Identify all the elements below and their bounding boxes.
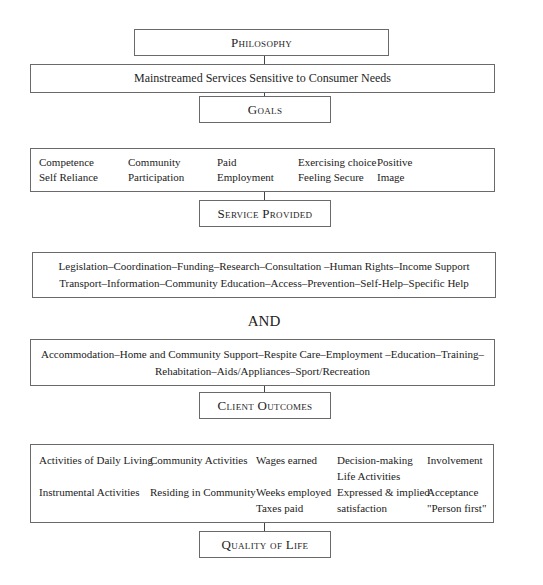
goal-item: Community xyxy=(128,155,184,170)
outcome-item: Instrumental Activities xyxy=(39,484,140,500)
client-outcomes-box: Client Outcomes xyxy=(199,392,331,419)
connector-line xyxy=(264,523,265,531)
connector-line xyxy=(264,192,265,200)
outcome-item: Wages earned xyxy=(256,452,317,468)
quality-of-life-box: Quality of Life xyxy=(199,531,331,558)
specific-services-box: Accommodation–Home and Community Support… xyxy=(30,339,495,386)
outcome-column: Acceptance "Person first" xyxy=(427,484,486,516)
outcome-item: "Person first" xyxy=(427,500,486,516)
and-connector-label: AND xyxy=(0,313,528,330)
outcome-item: Life Activities xyxy=(337,468,413,484)
service-provided-box: Service Provided xyxy=(199,200,331,227)
goals-box: Goals xyxy=(199,96,331,123)
outcome-item: Community Activities xyxy=(150,452,247,468)
goals-title: Goals xyxy=(248,102,282,118)
outcome-column: Wages earned xyxy=(256,452,317,468)
client-outcomes-title: Client Outcomes xyxy=(218,398,313,414)
outcome-item: Decision-making xyxy=(337,452,413,468)
specific-services-line: Accommodation–Home and Community Support… xyxy=(41,346,484,363)
goals-list-box: Competence Self Reliance Community Parti… xyxy=(30,148,495,192)
philosophy-box: Philosophy xyxy=(134,29,389,56)
outcome-column: Community Activities xyxy=(150,452,247,468)
outcome-item: Involvement xyxy=(427,452,483,468)
outcome-column: Residing in Community xyxy=(150,484,256,500)
philosophy-title: Philosophy xyxy=(231,35,292,51)
generic-services-line: Legislation–Coordination–Funding–Researc… xyxy=(59,258,470,275)
outcome-column: Instrumental Activities xyxy=(39,484,140,500)
outcome-item: Weeks employed xyxy=(256,484,331,500)
outcome-item: Expressed & implied xyxy=(337,484,430,500)
outcome-column: Expressed & implied satisfaction xyxy=(337,484,430,516)
philosophy-statement: Mainstreamed Services Sensitive to Consu… xyxy=(134,71,391,86)
outcome-item: Acceptance xyxy=(427,484,486,500)
outcome-item: satisfaction xyxy=(337,500,430,516)
goal-column: Paid Employment xyxy=(217,155,274,185)
goal-column: Community Participation xyxy=(128,155,184,185)
generic-services-line: Transport–Information–Community Educatio… xyxy=(59,275,469,292)
goal-item: Exercising choice xyxy=(298,155,377,170)
outcome-column: Weeks employed Taxes paid xyxy=(256,484,331,516)
philosophy-statement-box: Mainstreamed Services Sensitive to Consu… xyxy=(30,64,495,93)
connector-line xyxy=(264,56,265,64)
goal-column: Positive Image xyxy=(377,155,412,185)
goal-column: Exercising choice Feeling Secure xyxy=(298,155,377,185)
outcome-item: Residing in Community xyxy=(150,484,256,500)
outcome-item: Taxes paid xyxy=(256,500,331,516)
goal-item: Competence xyxy=(39,155,98,170)
goal-item: Paid xyxy=(217,155,274,170)
goal-item: Employment xyxy=(217,170,274,185)
service-provided-title: Service Provided xyxy=(218,206,313,222)
goal-item: Feeling Secure xyxy=(298,170,377,185)
outcome-column: Involvement xyxy=(427,452,483,468)
goal-item: Image xyxy=(377,170,412,185)
generic-services-box: Legislation–Coordination–Funding–Researc… xyxy=(32,252,496,298)
client-outcomes-list-box: Activities of Daily Living Instrumental … xyxy=(30,444,494,523)
outcome-column: Decision-making Life Activities xyxy=(337,452,413,484)
specific-services-line: Rehabitation–Aids/Appliances–Sport/Recre… xyxy=(155,363,370,380)
goal-item: Positive xyxy=(377,155,412,170)
outcome-item: Activities of Daily Living xyxy=(39,452,153,468)
goal-column: Competence Self Reliance xyxy=(39,155,98,185)
goal-item: Self Reliance xyxy=(39,170,98,185)
outcome-column: Activities of Daily Living xyxy=(39,452,153,468)
quality-of-life-title: Quality of Life xyxy=(222,537,309,553)
goal-item: Participation xyxy=(128,170,184,185)
